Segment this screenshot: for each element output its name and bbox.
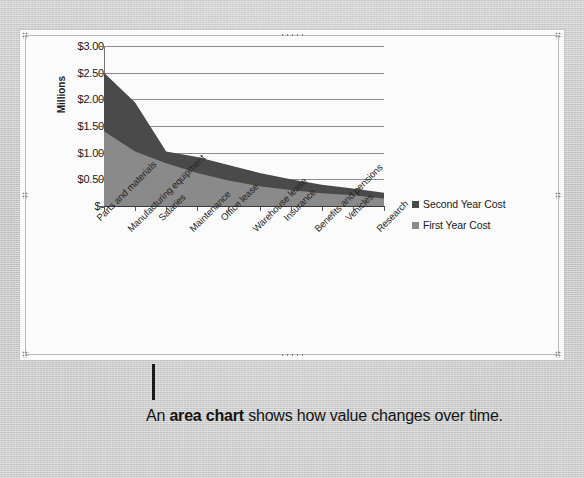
x-axis-tick-mark — [166, 207, 167, 211]
chart-object-frame[interactable]: Millions $3.00$2.50$2.00$1.50$1.00$0.50$… — [20, 30, 564, 360]
x-axis-tick-mark — [260, 207, 261, 211]
x-axis-tick-mark — [322, 207, 323, 211]
area-series-group — [104, 46, 384, 207]
callout-leader-line — [152, 364, 155, 400]
legend-item: Second Year Cost — [412, 198, 505, 210]
chart-legend: Second Year CostFirst Year Cost — [412, 198, 505, 240]
legend-color-swatch — [412, 201, 419, 208]
y-axis-tick-mark — [100, 153, 104, 154]
caption-suffix: shows how value changes over time. — [244, 407, 503, 424]
figure-caption: An area chart shows how value changes ov… — [146, 406, 526, 426]
y-axis-tick-mark — [100, 179, 104, 180]
legend-label: Second Year Cost — [423, 198, 505, 210]
y-axis-tick-labels: $3.00$2.50$2.00$1.50$1.00$0.50$- — [66, 68, 104, 228]
y-axis-tick-mark — [100, 126, 104, 127]
area-chart[interactable]: Millions $3.00$2.50$2.00$1.50$1.00$0.50$… — [20, 30, 564, 360]
legend-label: First Year Cost — [423, 219, 490, 231]
x-axis-tick-mark — [135, 207, 136, 211]
y-axis-tick-mark — [100, 73, 104, 74]
x-axis-tick-mark — [291, 207, 292, 211]
x-axis-tick-mark — [228, 207, 229, 211]
legend-color-swatch — [412, 222, 419, 229]
caption-emphasis: area chart — [169, 407, 244, 424]
caption-prefix: An — [146, 407, 169, 424]
x-axis-tick-mark — [197, 207, 198, 211]
x-axis-tick-mark — [384, 207, 385, 211]
y-axis-tick-mark — [100, 99, 104, 100]
x-axis-tick-mark — [104, 207, 105, 211]
legend-item: First Year Cost — [412, 219, 505, 231]
x-axis-tick-mark — [353, 207, 354, 211]
y-axis-tick-mark — [100, 46, 104, 47]
